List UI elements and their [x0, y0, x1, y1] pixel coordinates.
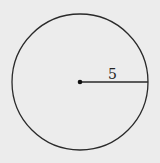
center-point	[78, 80, 83, 85]
circle-diagram: 5	[0, 0, 160, 163]
radius-label: 5	[108, 66, 117, 82]
diagram-canvas: 5	[0, 0, 160, 163]
